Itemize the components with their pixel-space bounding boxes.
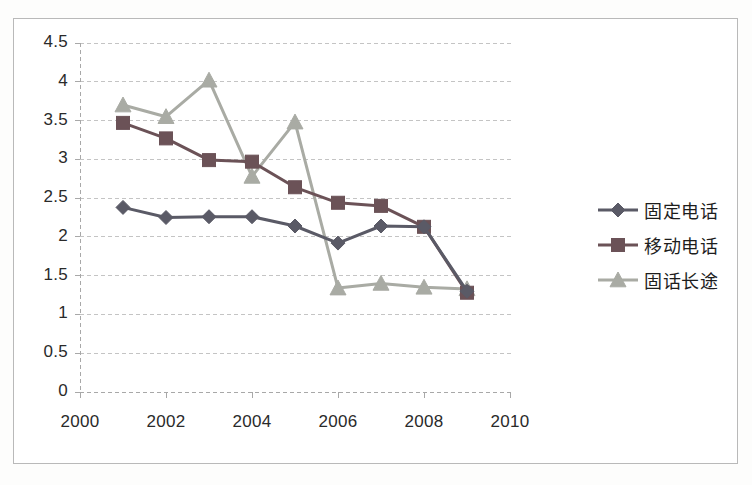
chart-container: 00.511.522.533.544.5 2000200220042006200… (0, 0, 752, 485)
y-axis-tick-label: 3.5 (22, 110, 68, 130)
y-axis-tick-label: 2.5 (22, 187, 68, 207)
y-axis-tick-label: 0.5 (22, 342, 68, 362)
legend-item-0[interactable]: 固定电话 (596, 192, 736, 227)
x-axis-tick-label: 2010 (478, 412, 542, 432)
legend-label-0: 固定电话 (644, 197, 718, 223)
y-axis-tick-label: 0 (22, 381, 68, 401)
x-axis-tick-label: 2006 (306, 412, 370, 432)
legend-label-1: 移动电话 (644, 232, 718, 258)
legend-marker-square-icon (596, 235, 640, 255)
legend-marker-svg (596, 235, 640, 255)
y-axis-tick-label: 2 (22, 226, 68, 246)
y-axis-tick-label: 3 (22, 148, 68, 168)
chart-legend: 固定电话 移动电话 固话长途 (596, 192, 736, 297)
y-axis-tick-label: 1 (22, 303, 68, 323)
legend-item-2[interactable]: 固话长途 (596, 262, 736, 297)
y-axis-tick-label: 4 (22, 71, 68, 91)
data-point-diamond (611, 203, 625, 217)
x-axis-tick-label: 2002 (134, 412, 198, 432)
legend-label-2: 固话长途 (644, 267, 718, 293)
x-axis-tick-label: 2008 (392, 412, 456, 432)
legend-marker-diamond-icon (596, 200, 640, 220)
data-point-square (612, 238, 625, 251)
legend-marker-svg (596, 200, 640, 220)
y-axis-tick-label: 1.5 (22, 265, 68, 285)
legend-item-1[interactable]: 移动电话 (596, 227, 736, 262)
x-axis-tick-label: 2000 (48, 412, 112, 432)
x-axis-tick-label: 2004 (220, 412, 284, 432)
legend-marker-triangle-icon (596, 270, 640, 290)
legend-marker-svg (596, 270, 640, 290)
y-axis-tick-label: 4.5 (22, 32, 68, 52)
